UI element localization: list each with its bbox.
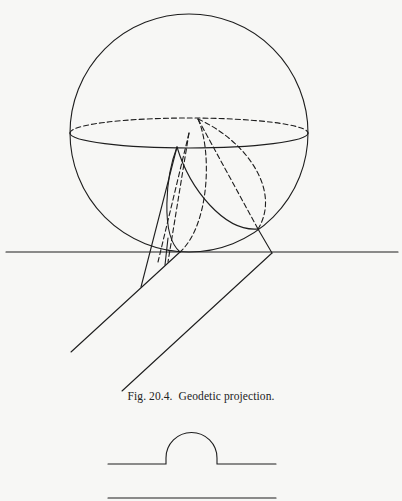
dashed-chord bbox=[198, 119, 258, 229]
geodetic-projection-figure: Fig. 20.4.Geodetic projection. bbox=[0, 0, 402, 501]
projection-ray-left bbox=[71, 252, 180, 352]
figure-caption: Fig. 20.4.Geodetic projection. bbox=[0, 390, 402, 402]
bump-profile-line bbox=[108, 433, 276, 464]
solid-great-circle-arc bbox=[177, 147, 258, 229]
projection-line-left bbox=[141, 147, 177, 287]
caption-label: Fig. 20.4. bbox=[128, 390, 173, 402]
equator-back bbox=[70, 118, 308, 133]
dashed-inner-ellipse bbox=[180, 119, 206, 252]
projection-line-right bbox=[258, 229, 272, 253]
dashed-outer-ellipse bbox=[198, 119, 266, 229]
caption-text: Geodetic projection. bbox=[179, 390, 275, 402]
figure-drawing bbox=[0, 0, 402, 501]
